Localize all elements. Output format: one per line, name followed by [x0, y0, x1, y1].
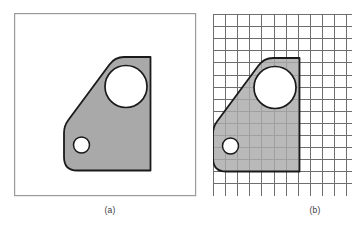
- large-hole-a: [105, 66, 147, 108]
- figure-container: (a) (b): [0, 0, 352, 229]
- small-hole-b: [223, 138, 239, 154]
- large-hole-b: [254, 67, 296, 109]
- panel-a-caption: (a): [98, 205, 122, 215]
- panel-b-caption: (b): [303, 205, 327, 215]
- small-hole-a: [74, 137, 90, 153]
- figure-canvas: [0, 0, 352, 229]
- panel-b: [213, 14, 352, 196]
- panel-a: [15, 14, 196, 196]
